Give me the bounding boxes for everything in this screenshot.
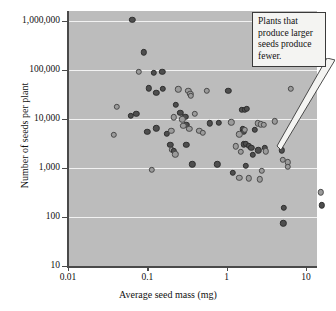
data-point: [111, 131, 117, 137]
data-point: [113, 104, 119, 110]
data-point: [258, 168, 264, 174]
y-axis-title: Number of seeds per plant: [19, 26, 30, 246]
data-point: [250, 152, 256, 158]
data-point: [160, 86, 166, 92]
x-tick-label: 10: [301, 272, 311, 282]
annotation-callout: Plants that produce larger seeds produce…: [252, 12, 326, 67]
data-point: [281, 205, 287, 211]
x-tick-label: 1: [224, 272, 229, 282]
data-point: [244, 106, 250, 112]
data-point: [203, 87, 209, 93]
data-point: [216, 120, 222, 126]
data-point: [189, 161, 195, 167]
data-point: [148, 166, 154, 172]
data-point: [242, 127, 248, 133]
x-tick: [147, 266, 148, 271]
data-point: [279, 147, 285, 153]
x-tick: [227, 266, 228, 271]
y-tick-label: 100: [0, 211, 60, 221]
data-point: [136, 69, 142, 75]
data-point: [150, 70, 156, 76]
x-tick: [306, 266, 307, 271]
data-point: [186, 126, 192, 132]
data-point: [246, 175, 252, 181]
x-tick: [68, 266, 69, 271]
gridline-y: [68, 119, 317, 120]
data-point: [287, 86, 293, 92]
data-point: [159, 69, 165, 75]
y-tick: [62, 21, 67, 22]
y-tick: [62, 217, 67, 218]
data-point: [248, 145, 254, 151]
seed-mass-scatter-figure: 101001,00010,000100,0001,000,000 0.010.1…: [0, 0, 336, 311]
y-axis-line: [67, 11, 69, 267]
data-point: [175, 86, 181, 92]
data-point: [146, 85, 152, 91]
y-tick: [62, 70, 67, 71]
data-point: [200, 129, 206, 135]
data-point: [261, 121, 267, 127]
y-tick-label: 10: [0, 260, 60, 270]
data-point: [262, 148, 268, 154]
data-point: [285, 164, 291, 170]
x-tick-label: 0.1: [141, 272, 153, 282]
data-point: [228, 119, 234, 125]
gridline-y: [68, 70, 317, 71]
gridline-y: [68, 168, 317, 169]
data-point: [133, 111, 139, 117]
data-point: [153, 125, 159, 131]
data-point: [280, 220, 286, 226]
data-point: [236, 131, 242, 137]
data-point: [272, 118, 278, 124]
y-tick-label: 1,000: [0, 162, 60, 172]
data-point: [206, 120, 212, 126]
data-point: [191, 111, 197, 117]
data-point: [173, 102, 179, 108]
data-point: [319, 202, 325, 208]
y-tick-label: 10,000: [0, 113, 60, 123]
data-point: [168, 128, 174, 134]
data-point: [188, 93, 194, 99]
data-point: [318, 189, 324, 195]
data-point: [251, 127, 257, 133]
gridline-y: [68, 217, 317, 218]
data-point: [230, 170, 236, 176]
data-point: [129, 17, 135, 23]
y-tick: [62, 168, 67, 169]
data-point: [172, 151, 178, 157]
y-tick-label: 1,000,000: [0, 15, 60, 25]
data-point: [237, 149, 243, 155]
data-point: [236, 175, 242, 181]
data-point: [256, 176, 262, 182]
y-tick: [62, 119, 67, 120]
data-point: [144, 129, 150, 135]
x-tick-label: 0.01: [60, 272, 77, 282]
data-point: [225, 87, 231, 93]
y-tick-label: 100,000: [0, 64, 60, 74]
x-axis-title: Average seed mass (mg): [0, 289, 336, 300]
data-point: [153, 90, 159, 96]
data-point: [214, 161, 220, 167]
data-point: [141, 49, 147, 55]
data-point: [183, 142, 189, 148]
y-tick: [62, 266, 67, 267]
x-axis-line: [67, 266, 317, 268]
